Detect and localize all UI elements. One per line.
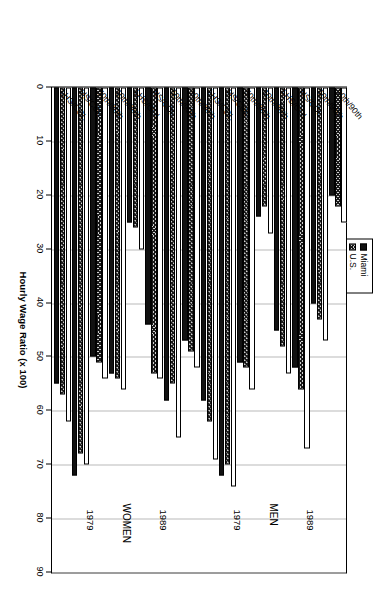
- tick-20: [46, 194, 51, 195]
- bar-miami-women-1989-50th-90th: [164, 87, 169, 400]
- tick-label-10: 10: [35, 125, 45, 155]
- tick-label-20: 20: [35, 179, 45, 209]
- bar-us-men-1979-50th-90th: [243, 87, 248, 367]
- tick-label-90: 90: [35, 556, 45, 586]
- tick-label-50: 50: [35, 340, 45, 370]
- bar-us-men-1979-lhs-col: [207, 87, 212, 421]
- bar-us-women-1989-50th-90th: [170, 87, 175, 383]
- bar-stl-men-1989-lhs-col: [286, 87, 291, 373]
- tick-10: [46, 140, 51, 141]
- bar-us-women-1989-hs-col: [151, 87, 156, 373]
- bar-us-men-1979-hs-col: [225, 87, 230, 464]
- bar-stl-men-1989-hs-col: [304, 87, 309, 448]
- bar-miami-women-1989-hs-col: [145, 87, 150, 324]
- gridline-70: [52, 464, 346, 465]
- bar-miami-men-1989-hs-col: [292, 87, 297, 367]
- gridline-80: [52, 518, 346, 519]
- bar-us-women-1989-10th-90th: [188, 87, 193, 351]
- year-label-women-1979: 1979: [85, 509, 96, 530]
- bar-stl-women-1989-10th-90th: [194, 87, 199, 367]
- bar-stl-men-1979-50th-90th: [249, 87, 254, 389]
- legend-label-us: U.S.: [348, 253, 357, 270]
- legend-swatch-miami: [360, 243, 367, 250]
- gridline-60: [52, 410, 346, 411]
- bar-stl-women-1979-50th-90th: [102, 87, 107, 378]
- tick-70: [46, 463, 51, 464]
- legend-label-miami: Miami: [359, 253, 368, 276]
- bar-miami-women-1979-hs-col: [72, 87, 77, 475]
- legend-item-miami: Miami: [358, 243, 369, 286]
- bar-us-men-1989-hs-col: [298, 87, 303, 389]
- bar-miami-men-1979-lhs-col: [201, 87, 206, 400]
- bar-stl-women-1979-lhs-col: [66, 87, 71, 421]
- bar-miami-women-1979-lhs-col: [54, 87, 59, 383]
- year-label-men-1989: 1989: [305, 509, 316, 530]
- tick-0: [46, 86, 51, 87]
- tick-40: [46, 302, 51, 303]
- legend-swatch-us: [349, 243, 356, 250]
- bar-stl-women-1989-50th-90th: [176, 87, 181, 437]
- bar-us-women-1979-hs-col: [78, 87, 83, 453]
- bar-miami-men-1989-lhs-col: [274, 87, 279, 330]
- tick-label-0: 0: [35, 71, 45, 101]
- bar-chart: Miami U.S. St. Louis 0102030405060708090…: [0, 0, 374, 601]
- tick-label-30: 30: [35, 233, 45, 263]
- tick-label-40: 40: [35, 287, 45, 317]
- year-label-women-1989: 1989: [158, 509, 169, 530]
- tick-label-80: 80: [35, 502, 45, 532]
- bar-us-women-1979-lhs-col: [60, 87, 65, 394]
- bar-us-men-1989-50th-90th: [317, 87, 322, 319]
- value-axis-title: Hourly Wage Ratio (x 100): [18, 86, 29, 573]
- bar-miami-men-1979-50th-90th: [237, 87, 242, 362]
- bar-stl-men-1979-hs-col: [231, 87, 236, 486]
- bar-miami-women-1979-50th-90th: [90, 87, 95, 356]
- panel-label-men: MEN: [269, 503, 280, 525]
- bar-stl-women-1979-10th-90th: [121, 87, 126, 389]
- tick-50: [46, 355, 51, 356]
- bar-stl-men-1979-lhs-col: [213, 87, 218, 459]
- tick-label-60: 60: [35, 394, 45, 424]
- year-label-men-1979: 1979: [232, 509, 243, 530]
- tick-90: [46, 571, 51, 572]
- bar-stl-men-1989-50th-90th: [323, 87, 328, 340]
- bar-us-women-1979-10th-90th: [115, 87, 120, 378]
- bar-stl-women-1979-hs-col: [84, 87, 89, 464]
- bar-miami-men-1979-hs-col: [219, 87, 224, 475]
- bar-miami-women-1989-10th-90th: [182, 87, 187, 340]
- tick-80: [46, 517, 51, 518]
- bar-miami-women-1979-10th-90th: [109, 87, 114, 373]
- chart-image: Miami U.S. St. Louis 0102030405060708090…: [0, 0, 374, 601]
- plot-area: [51, 86, 347, 573]
- bar-us-women-1979-50th-90th: [96, 87, 101, 362]
- tick-30: [46, 248, 51, 249]
- panel-label-women: WOMEN: [122, 503, 133, 542]
- bar-stl-women-1989-hs-col: [157, 87, 162, 378]
- tick-label-70: 70: [35, 448, 45, 478]
- rotated-chart-canvas: Miami U.S. St. Louis 0102030405060708090…: [0, 0, 374, 601]
- bar-us-men-1989-lhs-col: [280, 87, 285, 346]
- bar-miami-men-1989-50th-90th: [311, 87, 316, 303]
- legend-item-us: U.S.: [347, 243, 358, 286]
- gridline-90: [52, 572, 346, 573]
- tick-60: [46, 409, 51, 410]
